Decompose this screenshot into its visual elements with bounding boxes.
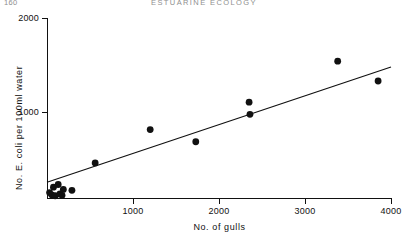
data-point [59,192,66,199]
data-point [69,187,76,194]
data-point [375,78,382,85]
data-point [247,111,254,118]
scatter-chart: 2000 1000 1000 2000 3000 4000 No. of gul… [0,0,408,237]
data-point [192,138,199,145]
textbook-page: 160 ESTUARINE ECOLOGY 2000 1000 1000 200… [0,0,408,237]
data-point [246,99,253,106]
plot-canvas [0,0,408,237]
data-point [92,160,99,167]
data-point [55,181,62,188]
data-point [60,186,67,193]
regression-line [47,67,391,182]
data-point [147,126,154,133]
data-point [334,58,341,65]
data-point-group [46,58,381,199]
